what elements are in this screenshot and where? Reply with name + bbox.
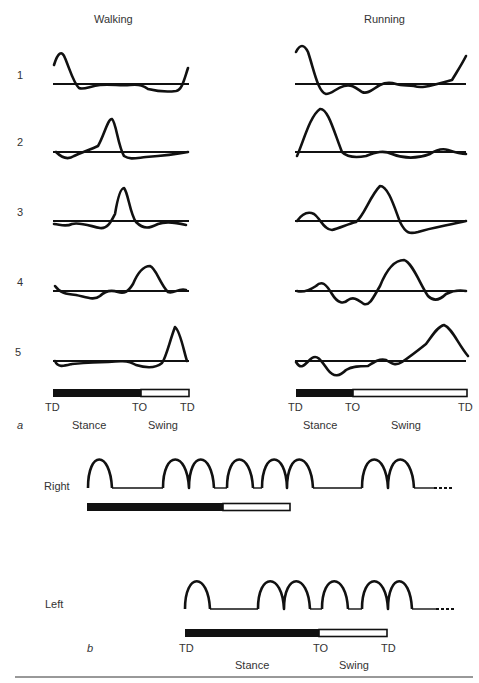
- running-to: TO: [345, 401, 360, 413]
- walking-traces: [53, 53, 189, 367]
- running-stance-label: Stance: [303, 419, 337, 431]
- walking-to: TO: [132, 401, 147, 413]
- left-stance-label: Stance: [235, 659, 269, 671]
- left-td-end: TD: [381, 642, 396, 654]
- walking-phase-bar: [53, 389, 189, 397]
- left-phase-bar: [185, 629, 387, 637]
- left-foot-label: Left: [45, 598, 63, 610]
- running-traces: [295, 46, 468, 375]
- left-to: TO: [313, 642, 328, 654]
- left-td-start: TD: [179, 642, 194, 654]
- left-foot-contact-trace: [185, 581, 454, 609]
- running-phase-bar: [296, 389, 467, 397]
- walking-td-start: TD: [45, 401, 60, 413]
- walking-stance-label: Stance: [72, 419, 106, 431]
- walking-td-end: TD: [180, 401, 195, 413]
- running-td-end: TD: [458, 401, 473, 413]
- left-swing-label: Swing: [339, 659, 369, 671]
- walking-swing-label: Swing: [148, 419, 178, 431]
- running-swing-label: Swing: [391, 419, 421, 431]
- panel-a-label: a: [17, 419, 23, 431]
- gait-emg-figure: [0, 0, 479, 683]
- right-foot-contact-trace: [88, 460, 453, 489]
- right-foot-label: Right: [44, 480, 70, 492]
- running-td-start: TD: [288, 401, 303, 413]
- panel-b-label: b: [87, 642, 93, 654]
- right-phase-bar: [87, 503, 290, 511]
